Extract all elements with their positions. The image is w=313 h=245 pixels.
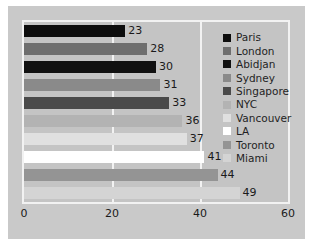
legend-label: Miami bbox=[236, 153, 268, 164]
legend-swatch-icon bbox=[223, 60, 231, 68]
legend-swatch-icon bbox=[223, 154, 231, 162]
x-tick-label: 60 bbox=[281, 207, 295, 220]
bar-value-label: 49 bbox=[243, 187, 257, 198]
chart-figure: 23283031333637414449 0204060 ParisLondon… bbox=[8, 6, 305, 239]
bar-sydney[interactable] bbox=[24, 79, 160, 91]
bar-value-label: 23 bbox=[128, 25, 142, 36]
x-tick-label: 0 bbox=[21, 207, 28, 220]
legend-item-nyc[interactable]: NYC bbox=[223, 98, 297, 111]
bar-toronto[interactable] bbox=[24, 169, 218, 181]
bar-value-label: 37 bbox=[190, 133, 204, 144]
bar-value-label: 36 bbox=[185, 115, 199, 126]
bar-vancouver[interactable] bbox=[24, 133, 187, 145]
legend-swatch-icon bbox=[223, 74, 231, 82]
legend-item-abidjan[interactable]: Abidjan bbox=[223, 58, 297, 71]
legend-swatch-icon bbox=[223, 34, 231, 42]
legend-label: LA bbox=[236, 126, 249, 137]
legend-swatch-icon bbox=[223, 127, 231, 135]
legend-swatch-icon bbox=[223, 141, 231, 149]
bar-value-label: 33 bbox=[172, 97, 186, 108]
bar-row: 49 bbox=[24, 187, 288, 199]
bar-la[interactable] bbox=[24, 151, 204, 163]
bar-nyc[interactable] bbox=[24, 115, 182, 127]
x-tick-label: 40 bbox=[193, 207, 207, 220]
legend-label: Toronto bbox=[236, 140, 275, 151]
bar-miami[interactable] bbox=[24, 187, 240, 199]
legend-label: Abidjan bbox=[236, 59, 275, 70]
legend-swatch-icon bbox=[223, 101, 231, 109]
bar-value-label: 31 bbox=[163, 79, 177, 90]
legend-item-miami[interactable]: Miami bbox=[223, 152, 297, 165]
legend-swatch-icon bbox=[223, 114, 231, 122]
legend-item-sydney[interactable]: Sydney bbox=[223, 71, 297, 84]
bar-paris[interactable] bbox=[24, 25, 125, 37]
legend-label: Sydney bbox=[236, 73, 275, 84]
bar-value-label: 44 bbox=[221, 169, 235, 180]
legend-swatch-icon bbox=[223, 47, 231, 55]
legend-item-toronto[interactable]: Toronto bbox=[223, 138, 297, 151]
legend-label: Paris bbox=[236, 32, 261, 43]
legend-swatch-icon bbox=[223, 87, 231, 95]
bar-singapore[interactable] bbox=[24, 97, 169, 109]
x-tick-label: 20 bbox=[105, 207, 119, 220]
x-axis-tick-labels: 0204060 bbox=[22, 204, 290, 226]
legend-item-singapore[interactable]: Singapore bbox=[223, 85, 297, 98]
legend-item-la[interactable]: LA bbox=[223, 125, 297, 138]
bar-value-label: 41 bbox=[207, 151, 221, 162]
bar-value-label: 30 bbox=[159, 61, 173, 72]
bar-london[interactable] bbox=[24, 43, 147, 55]
legend-item-london[interactable]: London bbox=[223, 44, 297, 57]
legend-label: NYC bbox=[236, 99, 257, 110]
legend-label: Singapore bbox=[236, 86, 289, 97]
legend-label: London bbox=[236, 46, 275, 57]
bar-value-label: 28 bbox=[150, 43, 164, 54]
legend-item-paris[interactable]: Paris bbox=[223, 31, 297, 44]
bar-abidjan[interactable] bbox=[24, 61, 156, 73]
legend-item-vancouver[interactable]: Vancouver bbox=[223, 111, 297, 124]
bar-row: 44 bbox=[24, 169, 288, 181]
chart-legend: ParisLondonAbidjanSydneySingaporeNYCVanc… bbox=[223, 31, 297, 165]
legend-label: Vancouver bbox=[236, 113, 291, 124]
